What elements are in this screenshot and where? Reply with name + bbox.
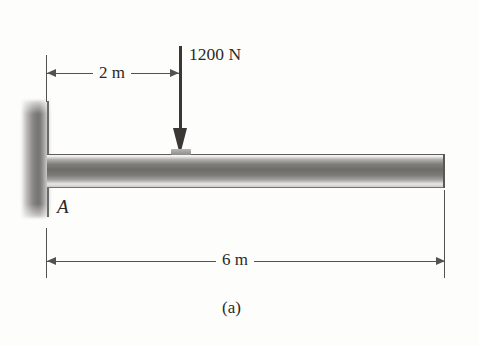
extension-line-left-bottom bbox=[46, 228, 47, 278]
arrow-right-icon-2m bbox=[170, 69, 179, 77]
support-label-a: A bbox=[57, 197, 69, 216]
extension-line-left-top bbox=[46, 55, 47, 102]
beam-free-end-cap bbox=[443, 154, 445, 188]
beam-top-edge bbox=[47, 154, 445, 155]
load-magnitude-label: 1200 N bbox=[189, 46, 241, 64]
beam-bottom-edge bbox=[47, 187, 445, 188]
fixed-support-hatching bbox=[22, 100, 50, 218]
load-contact-pad bbox=[171, 149, 191, 155]
dimension-label-2m: 2 m bbox=[93, 64, 131, 81]
arrow-left-icon-6m bbox=[47, 257, 56, 265]
arrow-left-icon-2m bbox=[47, 69, 56, 77]
beam-diagram-figure: 2 m 1200 N A 6 m (a) bbox=[0, 0, 479, 346]
figure-caption: (a) bbox=[222, 299, 241, 316]
beam-body bbox=[47, 154, 445, 188]
dimension-label-6m: 6 m bbox=[216, 251, 254, 268]
arrow-right-icon-6m bbox=[436, 257, 445, 265]
load-arrow-shaft bbox=[179, 46, 182, 132]
